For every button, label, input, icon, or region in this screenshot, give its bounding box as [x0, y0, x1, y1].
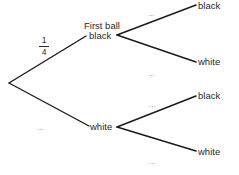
branch-white-white: [117, 127, 196, 151]
fraction-denominator: 4: [42, 47, 47, 57]
branch-root-white: [9, 83, 89, 126]
node-black-black: black: [198, 0, 220, 11]
node-white-black: black: [198, 90, 220, 101]
probability-black-black: ...: [148, 10, 155, 18]
branch-black-white: [117, 35, 196, 62]
probability-black-white: ...: [148, 70, 155, 78]
probability-first-white: ...: [37, 124, 44, 132]
branch-white-black: [117, 96, 196, 127]
node-white-white: white: [198, 146, 220, 157]
fraction-numerator: 1: [42, 35, 47, 45]
node-first-black: black: [89, 30, 111, 41]
node-black-white: white: [198, 56, 220, 67]
probability-first-black: 1 4: [39, 36, 49, 57]
probability-white-white: ...: [149, 158, 156, 166]
node-first-white: white: [90, 121, 112, 132]
branch-black-black: [117, 5, 196, 35]
probability-white-black: ...: [149, 101, 156, 109]
